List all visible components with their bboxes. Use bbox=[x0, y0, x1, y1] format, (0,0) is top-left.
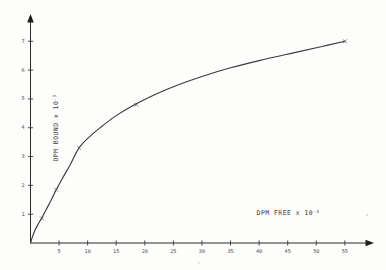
y-tick-label: 1 bbox=[21, 211, 24, 217]
y-tick-label: 7 bbox=[21, 38, 24, 44]
y-axis-title: DPM BOUND x 10-3 bbox=[52, 94, 60, 161]
y-axis-arrowhead bbox=[27, 14, 34, 23]
x-axis-arrowhead bbox=[366, 240, 375, 246]
x-tick-label: 20 bbox=[142, 248, 148, 254]
y-tick-label: 4 bbox=[21, 124, 24, 130]
x-tick-label: 10 bbox=[85, 248, 91, 254]
x-axis-title: DPM FREE x 10-3 bbox=[257, 209, 320, 217]
x-tick-label: 55 bbox=[342, 248, 348, 254]
x-tick-label: 5 bbox=[58, 248, 61, 254]
y-tick-label: 2 bbox=[21, 182, 24, 188]
x-tick-label: 30 bbox=[199, 248, 205, 254]
scan-speck bbox=[198, 262, 200, 264]
y-axis-ticks: 1234567 bbox=[21, 38, 33, 217]
x-tick-label: 45 bbox=[285, 248, 291, 254]
x-tick-label: 50 bbox=[313, 248, 319, 254]
data-point-marker bbox=[77, 146, 81, 150]
chart-figure: 1234567 510152025303540455055 DPM BOUND … bbox=[0, 0, 386, 270]
x-axis-ticks: 510152025303540455055 bbox=[58, 240, 348, 254]
plot-canvas: 1234567 510152025303540455055 DPM BOUND … bbox=[0, 0, 386, 270]
y-axis-title-group: DPM BOUND x 10-3 bbox=[52, 94, 60, 161]
y-tick-label: 6 bbox=[21, 67, 24, 73]
scan-speck bbox=[366, 214, 368, 216]
y-tick-label: 5 bbox=[21, 95, 24, 101]
x-tick-label: 40 bbox=[256, 248, 262, 254]
x-tick-label: 15 bbox=[113, 248, 119, 254]
x-tick-label: 35 bbox=[227, 248, 233, 254]
data-point-marker bbox=[54, 188, 58, 192]
axes-group bbox=[27, 14, 374, 246]
y-tick-label: 3 bbox=[21, 153, 24, 159]
data-point-markers bbox=[40, 39, 347, 220]
x-tick-label: 25 bbox=[170, 248, 176, 254]
